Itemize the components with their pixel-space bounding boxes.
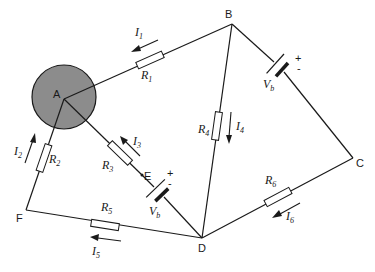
label-vb-ed: Vb: [149, 204, 160, 220]
label-r6: R6: [264, 173, 276, 189]
node-label-e: E: [144, 170, 151, 182]
circuit-diagram: A B C D E F R1 R2 R3 R4 R5 R6 I1 I2 I3 I…: [0, 0, 375, 272]
current-arrow-i5: [90, 234, 121, 241]
label-i4: I4: [235, 119, 244, 135]
node-label-f: F: [16, 212, 23, 224]
resistor-r4: [212, 112, 223, 141]
node-a-sphere: [32, 65, 96, 129]
minus-sign-bc: -: [297, 62, 301, 74]
resistor-r5: [91, 219, 120, 230]
label-r4: R4: [197, 122, 209, 138]
label-i3: I3: [132, 134, 141, 150]
resistor-r1: [136, 51, 164, 69]
current-arrow-i2: [25, 133, 36, 163]
node-label-b: B: [225, 8, 232, 20]
label-vb-bc: Vb: [263, 77, 274, 93]
label-r5: R5: [100, 200, 112, 216]
label-r3: R3: [101, 158, 113, 174]
node-label-a: A: [53, 88, 61, 100]
label-r2: R2: [48, 152, 60, 168]
minus-sign-ed: -: [168, 177, 172, 189]
node-label-d: D: [198, 242, 206, 254]
current-arrow-i4: [226, 112, 232, 144]
label-i5: I5: [91, 244, 100, 260]
label-r1: R1: [140, 68, 152, 84]
label-i2: I2: [13, 144, 22, 160]
node-label-c: C: [356, 157, 364, 169]
wires: [26, 24, 353, 238]
label-i1: I1: [134, 25, 143, 41]
label-i6: I6: [285, 209, 294, 225]
resistor-r6: [264, 187, 292, 206]
current-arrow-i1: [131, 40, 158, 52]
